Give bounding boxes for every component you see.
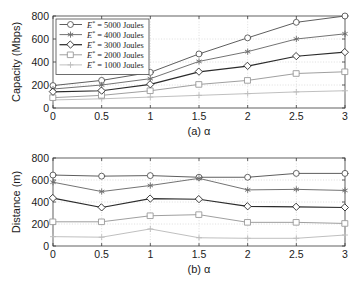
x-tick-label: 3 [342,110,348,122]
circle-marker [293,19,299,25]
diamond-marker [342,49,349,56]
x-axis-label: (a) α [188,125,212,137]
plus-marker [245,236,250,241]
square-marker [50,219,56,225]
diamond-marker [293,203,300,210]
legend: E* = 5000 JoulesE* = 4000 JoulesE* = 300… [56,19,149,75]
circle-marker [342,13,348,19]
diamond-marker [342,204,349,211]
diamond-marker [147,195,154,202]
x-tick-label: 0.5 [94,110,109,122]
x-tick-label: 1.5 [192,110,207,122]
square-marker [99,219,105,225]
x-tick-label: 0 [50,110,56,122]
diamond-marker [293,53,300,60]
diamond-marker [50,88,57,95]
square-marker [196,212,202,218]
x-axis-label: (b) α [188,263,212,275]
y-tick-label: 600 [31,174,49,186]
x-tick-label: 3 [342,248,348,260]
y-tick-label: 400 [31,196,49,208]
capacity-chart-panel: 00.511.522.530200400600800Capacity (Mbps… [0,0,355,146]
plus-marker [294,89,299,94]
circle-marker [245,35,251,41]
data-series [50,195,349,211]
diamond-marker [50,195,57,202]
circle-marker [342,170,348,176]
plus-marker [342,88,347,93]
legend-item-label: E* = 4000 Joules [86,30,144,40]
x-tick-label: 0 [50,248,56,260]
circle-marker [68,22,74,28]
plus-marker [196,235,201,240]
y-tick-label: 400 [31,56,49,68]
circle-marker [147,173,153,179]
x-tick-label: 1.5 [192,248,207,260]
circle-marker [245,174,251,180]
circle-marker [99,173,105,179]
square-marker [245,220,251,226]
y-tick-label: 600 [31,33,49,45]
square-marker [68,52,74,58]
square-marker [294,220,300,226]
plus-marker [245,91,250,96]
legend-item-label: E* = 2000 Joules [86,50,144,60]
legend-item-label: E* = 5000 Joules [86,20,144,30]
square-marker [342,69,348,75]
square-marker [294,71,300,77]
y-axis-label: Capacity (Mbps) [10,22,22,102]
plus-marker [196,93,201,98]
diamond-marker [147,81,154,88]
distance-chart: 00.511.522.530200400600800Distance (m)(b… [0,146,355,283]
y-tick-label: 0 [43,102,49,114]
y-axis-label: Distance (m) [10,171,22,233]
y-tick-label: 800 [31,10,49,22]
plus-marker [148,94,153,99]
plus-marker [342,232,347,237]
x-tick-label: 2 [245,248,251,260]
circle-marker [196,51,202,57]
circle-marker [293,170,299,176]
plus-marker [148,226,153,231]
diamond-marker [196,68,203,75]
square-marker [196,82,202,88]
diamond-marker [98,204,105,211]
square-marker [342,221,348,227]
distance-chart-panel: 00.511.522.530200400600800Distance (m)(b… [0,146,355,283]
x-tick-label: 2.5 [289,110,304,122]
figure-container: 00.511.522.530200400600800Capacity (Mbps… [0,0,355,283]
x-tick-label: 1 [147,110,153,122]
square-marker [148,88,154,94]
diamond-marker [196,196,203,203]
diamond-marker [244,203,251,210]
square-marker [245,78,251,84]
legend-item-label: E* = 1000 Joules [86,60,144,70]
x-tick-label: 0.5 [94,248,109,260]
diamond-marker [244,63,251,70]
data-series-group [50,170,349,241]
plus-marker [50,234,55,239]
legend-item-label: E* = 3000 Joules [86,40,144,50]
x-tick-label: 2 [245,110,251,122]
y-tick-label: 0 [43,240,49,252]
x-tick-label: 2.5 [289,248,304,260]
plus-marker [99,235,104,240]
square-marker [148,213,154,219]
circle-marker [50,172,56,178]
capacity-chart: 00.511.522.530200400600800Capacity (Mbps… [0,0,355,146]
y-tick-label: 800 [31,152,49,164]
plus-marker [294,236,299,241]
x-tick-label: 1 [147,248,153,260]
y-tick-label: 200 [31,218,49,230]
y-tick-label: 200 [31,79,49,91]
